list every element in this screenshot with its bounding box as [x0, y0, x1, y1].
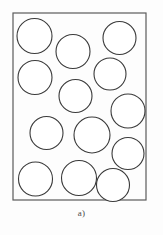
packed-circle — [112, 138, 144, 170]
packed-circle — [56, 35, 90, 69]
packed-circle — [30, 117, 63, 150]
packed-circle — [17, 19, 52, 54]
packed-circle — [18, 61, 52, 95]
packed-circle — [74, 117, 110, 153]
packed-circle — [111, 94, 145, 128]
figure-caption: a) — [0, 207, 163, 219]
packed-circle — [103, 22, 136, 55]
figure-panel: a) — [0, 0, 163, 235]
packed-circle — [62, 161, 97, 196]
packed-circle — [19, 162, 53, 196]
packed-circle — [59, 80, 92, 113]
figure-graphic — [0, 0, 163, 235]
packed-circle — [94, 58, 126, 90]
packed-circle — [97, 169, 130, 202]
